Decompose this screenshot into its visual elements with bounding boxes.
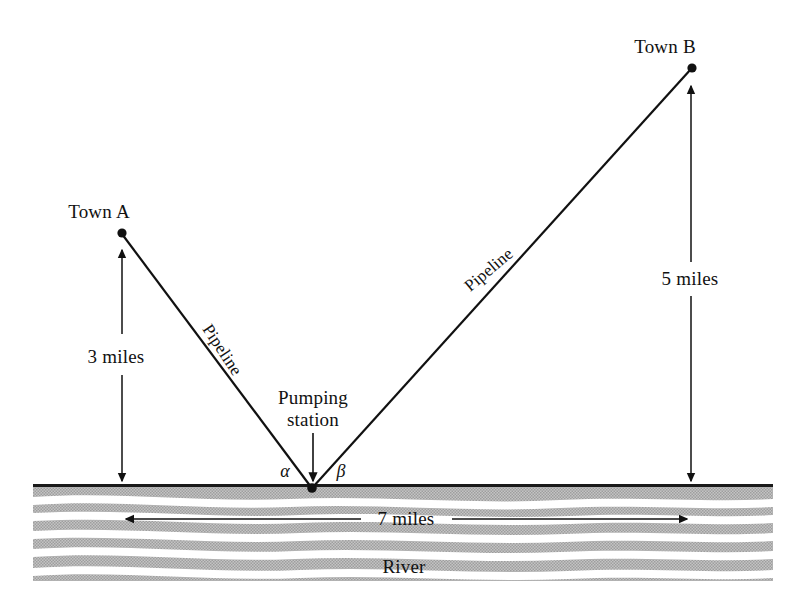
town-b-label: Town B bbox=[634, 37, 696, 57]
pumping-station-point bbox=[307, 483, 317, 493]
river-label: River bbox=[382, 557, 425, 577]
pipeline-diagram: Town A Town B Pipeline Pipeline Pumping … bbox=[0, 0, 808, 604]
angle-beta-label: β bbox=[336, 462, 345, 481]
pipeline-lines bbox=[122, 69, 691, 487]
pumping-station-label: Pumping station bbox=[278, 387, 348, 432]
distance-b-label: 5 miles bbox=[662, 269, 719, 289]
town-a-label: Town A bbox=[68, 202, 130, 222]
angle-alpha-label: α bbox=[280, 462, 290, 481]
town-a-point bbox=[117, 228, 126, 237]
town-b-point bbox=[687, 63, 696, 72]
pumping-station-label-line1: Pumping bbox=[278, 387, 348, 409]
distance-a-label: 3 miles bbox=[88, 347, 145, 367]
pipeline-segment-right bbox=[313, 69, 691, 487]
pumping-station-label-line2: station bbox=[278, 409, 348, 431]
distance-river-label: 7 miles bbox=[378, 509, 435, 529]
pipeline-segment-left bbox=[122, 234, 311, 487]
